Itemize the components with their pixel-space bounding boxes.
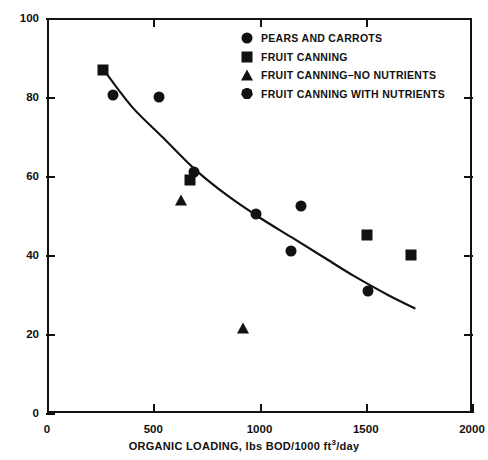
x-axis-label: ORGANIC LOADING, lbs BOD/1000 ft3/day bbox=[0, 438, 488, 452]
legend: PEARS AND CARROTSFRUIT CANNINGFRUIT CANN… bbox=[240, 30, 445, 104]
data-point-circle bbox=[362, 285, 373, 296]
x-tick bbox=[153, 404, 155, 413]
data-point-triangle bbox=[175, 194, 187, 205]
data-point-circle bbox=[153, 92, 164, 103]
x-tick-label: 500 bbox=[123, 423, 183, 435]
y-tick-right bbox=[464, 255, 473, 257]
x-tick bbox=[472, 404, 474, 413]
legend-item: FRUIT CANNING–NO NUTRIENTS bbox=[240, 67, 445, 83]
y-tick bbox=[46, 255, 55, 257]
y-tick-label: 100 bbox=[5, 12, 39, 24]
data-point-circle bbox=[107, 90, 118, 101]
x-tick-label: 0 bbox=[17, 423, 77, 435]
data-point-square bbox=[98, 65, 109, 76]
data-point-circle bbox=[251, 208, 262, 219]
data-point-square bbox=[361, 230, 372, 241]
legend-label: FRUIT CANNING bbox=[261, 51, 348, 63]
x-tick-top bbox=[153, 18, 155, 27]
legend-label: PEARS AND CARROTS bbox=[261, 32, 382, 44]
legend-item: PEARS AND CARROTS bbox=[240, 30, 445, 46]
x-axis-label-post: /day bbox=[336, 440, 359, 452]
y-tick-label: 0 bbox=[5, 407, 39, 419]
data-point-square bbox=[184, 174, 195, 185]
y-tick bbox=[46, 97, 55, 99]
legend-label: FRUIT CANNING WITH NUTRIENTS bbox=[261, 88, 445, 100]
x-tick-top bbox=[366, 18, 368, 27]
y-tick-right bbox=[464, 334, 473, 336]
legend-marker-heptagon bbox=[240, 87, 254, 101]
y-tick-label: 20 bbox=[5, 328, 39, 340]
legend-marker-circle bbox=[240, 31, 254, 45]
legend-marker-square bbox=[240, 50, 254, 64]
chart-root: BOD REMOVAL, percent ORGANIC LOADING, lb… bbox=[0, 0, 488, 460]
x-tick-label: 1500 bbox=[336, 423, 396, 435]
data-point-circle bbox=[295, 200, 306, 211]
legend-marker-triangle bbox=[240, 68, 254, 82]
legend-item: FRUIT CANNING bbox=[240, 49, 445, 65]
y-tick-right bbox=[464, 97, 473, 99]
y-tick-label: 40 bbox=[5, 249, 39, 261]
y-tick bbox=[46, 413, 55, 415]
x-tick bbox=[260, 404, 262, 413]
y-tick bbox=[46, 18, 55, 20]
x-axis-label-pre: ORGANIC LOADING, lbs BOD/1000 ft bbox=[129, 440, 332, 452]
legend-label: FRUIT CANNING–NO NUTRIENTS bbox=[261, 69, 436, 81]
x-tick-label: 1000 bbox=[230, 423, 290, 435]
y-tick-right bbox=[464, 176, 473, 178]
data-point-square bbox=[406, 250, 417, 261]
y-tick-label: 80 bbox=[5, 91, 39, 103]
data-point-circle bbox=[286, 246, 297, 257]
x-tick-label: 2000 bbox=[442, 423, 488, 435]
legend-item: FRUIT CANNING WITH NUTRIENTS bbox=[240, 86, 445, 102]
data-point-triangle bbox=[237, 323, 249, 334]
y-tick bbox=[46, 334, 55, 336]
y-tick bbox=[46, 176, 55, 178]
x-tick bbox=[366, 404, 368, 413]
x-tick-top bbox=[260, 18, 262, 27]
y-tick-label: 60 bbox=[5, 170, 39, 182]
